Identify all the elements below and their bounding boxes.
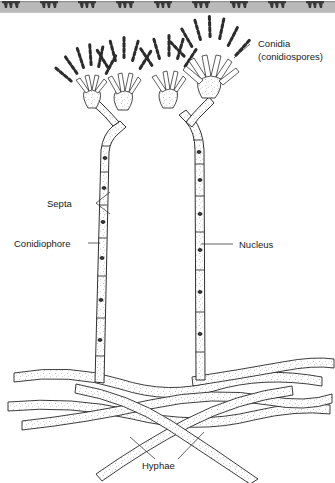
label-nucleus: Nucleus: [239, 239, 274, 250]
leader-conidia: [234, 44, 250, 58]
phialides-3: [152, 71, 186, 92]
label-hyphae: Hyphae: [142, 460, 175, 471]
label-septa: Septa: [47, 198, 73, 209]
stalk-right: [179, 110, 205, 380]
mold-diagram: Conidia (conidiospores) Septa Conidiopho…: [0, 0, 335, 483]
phialides-1: [76, 75, 107, 93]
conidiophore-left: [95, 121, 126, 383]
label-conidiophore: Conidiophore: [14, 238, 71, 249]
conidia-chains-4: [168, 15, 251, 58]
label-conidia-line2: (conidiospores): [258, 51, 323, 62]
conidiophore-right: [179, 110, 205, 380]
conidial-head-1: [54, 43, 118, 108]
phialides-2: [108, 73, 141, 94]
figure-container: Conidia (conidiospores) Septa Conidiopho…: [0, 0, 335, 483]
label-conidia-line1: Conidia: [258, 38, 291, 49]
stalk-left: [95, 121, 126, 383]
conidiophore-branch-right: [186, 97, 214, 127]
